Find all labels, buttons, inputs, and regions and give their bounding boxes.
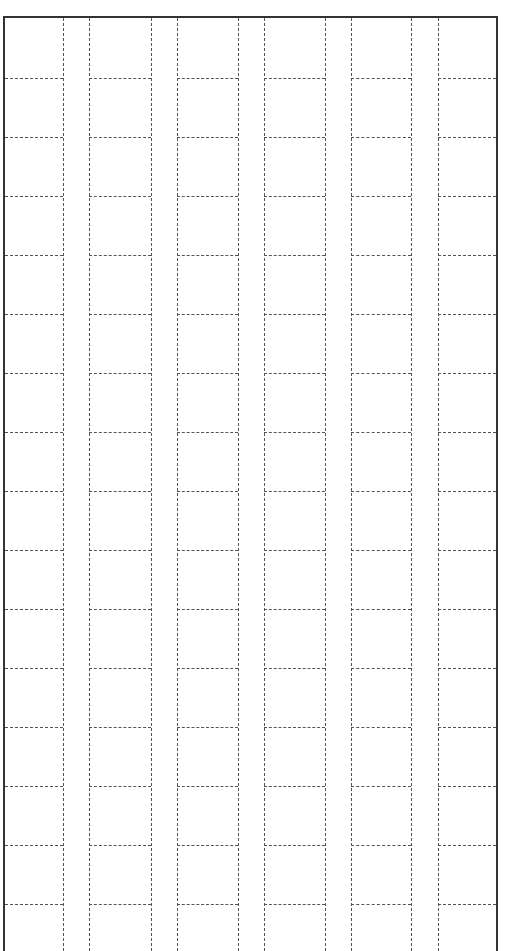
- grid-horizontal-line: [438, 491, 496, 492]
- grid-vertical-line: [264, 18, 265, 951]
- grid-vertical-line: [411, 18, 412, 951]
- grid-horizontal-line: [264, 845, 325, 846]
- grid-horizontal-line: [5, 845, 63, 846]
- grid-horizontal-line: [438, 550, 496, 551]
- grid-horizontal-line: [177, 609, 238, 610]
- grid-horizontal-line: [177, 432, 238, 433]
- grid-horizontal-line: [351, 727, 411, 728]
- grid-horizontal-line: [264, 904, 325, 905]
- grid-horizontal-line: [438, 904, 496, 905]
- grid-horizontal-line: [177, 255, 238, 256]
- grid-horizontal-line: [177, 314, 238, 315]
- grid-horizontal-line: [177, 550, 238, 551]
- grid-horizontal-line: [89, 314, 151, 315]
- grid-horizontal-line: [5, 314, 63, 315]
- grid-horizontal-line: [351, 255, 411, 256]
- grid-horizontal-line: [351, 196, 411, 197]
- grid-vertical-line: [151, 18, 152, 951]
- grid-horizontal-line: [89, 78, 151, 79]
- grid-horizontal-line: [5, 373, 63, 374]
- grid-horizontal-line: [5, 78, 63, 79]
- grid-horizontal-line: [5, 609, 63, 610]
- grid-horizontal-line: [438, 432, 496, 433]
- grid-horizontal-line: [5, 491, 63, 492]
- grid-horizontal-line: [177, 491, 238, 492]
- grid-horizontal-line: [5, 786, 63, 787]
- grid-horizontal-line: [89, 727, 151, 728]
- grid-vertical-line: [177, 18, 178, 951]
- grid-horizontal-line: [89, 786, 151, 787]
- grid-horizontal-line: [177, 727, 238, 728]
- grid-horizontal-line: [351, 904, 411, 905]
- grid-horizontal-line: [351, 491, 411, 492]
- grid-horizontal-line: [264, 786, 325, 787]
- grid-horizontal-line: [438, 78, 496, 79]
- grid-horizontal-line: [264, 78, 325, 79]
- grid-horizontal-line: [264, 314, 325, 315]
- grid-horizontal-line: [264, 727, 325, 728]
- grid-horizontal-line: [89, 137, 151, 138]
- grid-horizontal-line: [264, 550, 325, 551]
- grid-horizontal-line: [351, 78, 411, 79]
- grid-horizontal-line: [89, 432, 151, 433]
- grid-horizontal-line: [264, 137, 325, 138]
- grid-horizontal-line: [177, 845, 238, 846]
- grid-horizontal-line: [438, 609, 496, 610]
- grid-horizontal-line: [351, 609, 411, 610]
- grid-horizontal-line: [351, 137, 411, 138]
- grid-horizontal-line: [438, 727, 496, 728]
- grid-horizontal-line: [264, 491, 325, 492]
- grid-horizontal-line: [89, 373, 151, 374]
- grid-horizontal-line: [351, 550, 411, 551]
- grid-horizontal-line: [177, 196, 238, 197]
- grid-horizontal-line: [177, 373, 238, 374]
- grid-horizontal-line: [5, 432, 63, 433]
- grid-horizontal-line: [5, 255, 63, 256]
- grid-horizontal-line: [177, 786, 238, 787]
- grid-horizontal-line: [264, 373, 325, 374]
- grid-horizontal-line: [351, 845, 411, 846]
- grid-horizontal-line: [351, 432, 411, 433]
- grid-horizontal-line: [89, 196, 151, 197]
- grid-horizontal-line: [438, 255, 496, 256]
- grid-horizontal-line: [5, 668, 63, 669]
- grid-horizontal-line: [264, 432, 325, 433]
- grid-horizontal-line: [264, 196, 325, 197]
- grid-horizontal-line: [89, 845, 151, 846]
- grid-horizontal-line: [264, 609, 325, 610]
- grid-horizontal-line: [351, 786, 411, 787]
- grid-sheet: [3, 16, 498, 951]
- grid-horizontal-line: [177, 137, 238, 138]
- grid-horizontal-line: [438, 196, 496, 197]
- grid-horizontal-line: [89, 668, 151, 669]
- grid-horizontal-line: [438, 786, 496, 787]
- grid-horizontal-line: [438, 845, 496, 846]
- grid-horizontal-line: [177, 78, 238, 79]
- grid-vertical-line: [351, 18, 352, 951]
- grid-horizontal-line: [89, 550, 151, 551]
- grid-horizontal-line: [177, 904, 238, 905]
- grid-horizontal-line: [89, 904, 151, 905]
- grid-horizontal-line: [351, 668, 411, 669]
- grid-horizontal-line: [5, 137, 63, 138]
- grid-horizontal-line: [438, 314, 496, 315]
- grid-horizontal-line: [5, 904, 63, 905]
- grid-horizontal-line: [177, 668, 238, 669]
- grid-vertical-line: [238, 18, 239, 951]
- grid-horizontal-line: [438, 668, 496, 669]
- grid-horizontal-line: [438, 137, 496, 138]
- grid-horizontal-line: [438, 373, 496, 374]
- grid-vertical-line: [325, 18, 326, 951]
- grid-horizontal-line: [89, 491, 151, 492]
- grid-horizontal-line: [5, 550, 63, 551]
- grid-vertical-line: [89, 18, 90, 951]
- grid-horizontal-line: [351, 373, 411, 374]
- grid-horizontal-line: [351, 314, 411, 315]
- grid-horizontal-line: [264, 668, 325, 669]
- grid-horizontal-line: [5, 196, 63, 197]
- grid-vertical-line: [63, 18, 64, 951]
- grid-horizontal-line: [264, 255, 325, 256]
- grid-vertical-line: [438, 18, 439, 951]
- grid-horizontal-line: [89, 609, 151, 610]
- grid-horizontal-line: [89, 255, 151, 256]
